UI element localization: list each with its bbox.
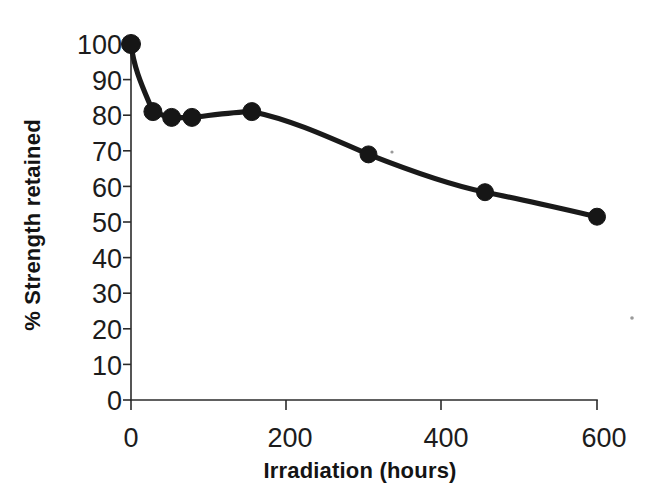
data-point [122,35,141,54]
y-tick-label: 50 [92,208,122,238]
y-tick-label: 10 [92,351,122,381]
y-tick-label: 100 [77,30,122,60]
data-point [360,146,377,163]
x-tick-label: 600 [581,423,626,453]
y-tick-label: 40 [92,244,122,274]
y-tick-label: 90 [92,66,122,96]
data-point [477,184,494,201]
x-tick-label: 400 [423,423,468,453]
y-axis-title: % Strength retained [20,119,45,331]
data-point [589,208,606,225]
data-point [183,108,201,126]
y-tick-label: 80 [92,101,122,131]
y-tick-label: 30 [92,279,122,309]
x-tick-label: 0 [123,423,138,453]
y-tick-label: 0 [107,386,122,416]
data-point [163,108,181,126]
x-tick-label: 200 [267,423,312,453]
scan-speck [630,316,634,320]
y-tick-label: 70 [92,137,122,167]
x-axis-title: Irradiation (hours) [263,458,456,483]
scan-speck [390,150,393,153]
chart-figure: 100 90 80 70 60 50 40 30 20 10 0 0 20 [0,0,658,502]
y-tick-label: 60 [92,173,122,203]
y-tick-label: 20 [92,315,122,345]
data-point [144,103,162,121]
data-point [243,103,261,121]
